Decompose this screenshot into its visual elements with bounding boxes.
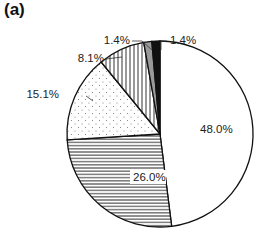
slice-label: 1.4% [104, 34, 130, 46]
slice-label: 15.1% [26, 88, 59, 100]
pie-chart: 48.0%26.0%15.1%8.1%1.4%1.4% [0, 0, 259, 247]
slice-label: 8.1% [78, 52, 104, 64]
slice-label: 1.4% [170, 34, 196, 46]
slice-label: 26.0% [133, 171, 166, 183]
slice-label: 48.0% [200, 123, 233, 135]
